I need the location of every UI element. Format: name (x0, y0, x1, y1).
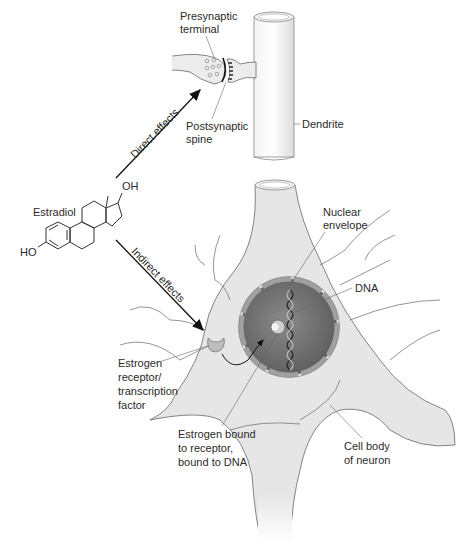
leader-lines (0, 0, 470, 544)
estradiol-effects-diagram: Estradiol OH HO Direct effects Indirect … (0, 0, 470, 544)
